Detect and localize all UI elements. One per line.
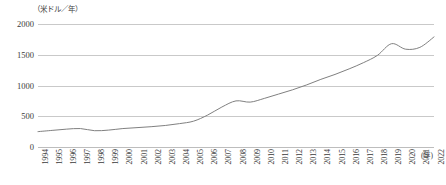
x-tick-label-1998: 1998 [98,149,106,165]
x-tick-label-2012: 2012 [296,149,304,165]
x-tick-label-2014: 2014 [324,149,332,165]
x-tick-label-2013: 2013 [310,149,318,165]
x-tick-label-2011: 2011 [282,149,290,164]
series-path [38,37,434,132]
x-tick-label-2000: 2000 [126,149,134,165]
y-axis-unit-caption: （米ドル／年） [33,6,82,14]
y-axis-tick-label-group: 0500100015002000 [0,24,34,147]
x-tick-label-2004: 2004 [183,149,191,165]
x-tick-label-2002: 2002 [155,149,163,165]
x-tick-label-2001: 2001 [141,149,149,165]
x-tick-label-2005: 2005 [197,149,205,165]
x-tick-label-2019: 2019 [395,149,403,165]
data-series-line [38,24,434,147]
x-axis-tick-label-group: 1994199519961997199819992000200120022003… [38,149,434,183]
y-tick-label-500: 500 [0,112,34,121]
x-tick-label-2006: 2006 [211,149,219,165]
x-tick-label-2003: 2003 [169,149,177,165]
plot-area [38,24,434,147]
x-tick-label-1999: 1999 [112,149,120,165]
x-tick-label-2016: 2016 [353,149,361,165]
y-tick-label-2000: 2000 [0,20,34,29]
x-tick-label-2015: 2015 [339,149,347,165]
x-tick-label-2010: 2010 [268,149,276,165]
x-tick-label-2009: 2009 [254,149,262,165]
x-tick-label-2008: 2008 [240,149,248,165]
x-tick-label-2018: 2018 [381,149,389,165]
y-tick-label-1500: 1500 [0,51,34,60]
x-tick-label-1996: 1996 [70,149,78,165]
x-tick-label-2022: 2022 [438,149,446,165]
x-tick-label-1995: 1995 [56,149,64,165]
x-axis-unit-caption: (年) [421,152,433,160]
x-tick-label-2017: 2017 [367,149,375,165]
x-tick-label-1997: 1997 [84,149,92,165]
x-tick-label-2007: 2007 [225,149,233,165]
x-tick-label-1994: 1994 [42,149,50,165]
y-tick-label-1000: 1000 [0,81,34,90]
x-tick-label-2020: 2020 [409,149,417,165]
y-tick-label-0: 0 [0,143,34,152]
